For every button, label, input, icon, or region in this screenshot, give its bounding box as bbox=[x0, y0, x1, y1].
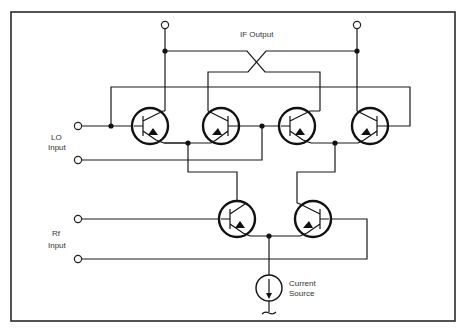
current-source bbox=[256, 236, 282, 314]
lo-input-label-line1: LO bbox=[51, 133, 62, 142]
transistor-q3 bbox=[279, 108, 320, 144]
junction-dot bbox=[162, 48, 167, 53]
transistor-q5 bbox=[219, 201, 288, 237]
current-source-label-line1: Current bbox=[289, 279, 316, 288]
lo-input-label-line2: Input bbox=[48, 143, 67, 152]
lo-input-terminal-bottom bbox=[74, 156, 81, 163]
if-output-terminal-right bbox=[353, 21, 360, 28]
rf-input-terminal-top bbox=[74, 215, 81, 222]
rf-input-terminal-bottom bbox=[74, 255, 81, 262]
rf-input-label-line2: Input bbox=[48, 241, 67, 250]
junction-dot bbox=[108, 123, 113, 128]
transistor-q4 bbox=[352, 108, 388, 144]
gilbert-cell-mixer-diagram: IF Output LO Input bbox=[0, 0, 463, 331]
lo-input-terminal-top bbox=[74, 122, 81, 129]
current-source-label-line2: Source bbox=[289, 289, 315, 298]
junction-dot bbox=[354, 48, 359, 53]
upper-emitter-network bbox=[164, 140, 358, 203]
junction-dot bbox=[259, 123, 264, 128]
if-output-terminal-left bbox=[161, 21, 168, 28]
if-output-network bbox=[162, 29, 359, 111]
diagram-frame bbox=[11, 12, 455, 321]
transistor-q6 bbox=[288, 201, 331, 237]
transistor-q1 bbox=[132, 108, 188, 144]
rf-input-label-line1: Rf bbox=[52, 229, 61, 238]
transistor-q2 bbox=[203, 108, 239, 144]
if-output-label: IF Output bbox=[240, 30, 274, 39]
